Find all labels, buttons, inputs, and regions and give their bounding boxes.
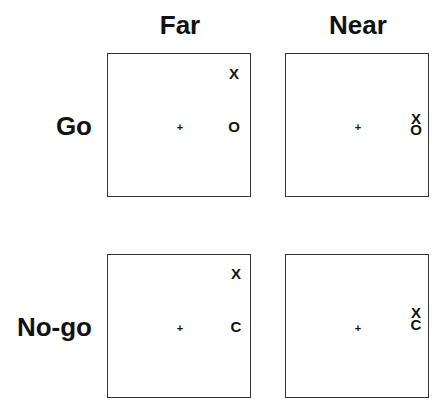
fixation-cross: + xyxy=(355,122,361,133)
target-symbol-o: O xyxy=(228,119,240,134)
row-label-nogo: No-go xyxy=(0,312,92,342)
target-symbol-o: O xyxy=(410,122,422,137)
target-symbol-c: C xyxy=(231,319,242,334)
panel-nogo-far: + X C xyxy=(107,254,251,398)
panel-nogo-near: + X C xyxy=(285,254,429,398)
fixation-cross: + xyxy=(177,323,183,334)
panel-go-far: + X O xyxy=(107,53,251,197)
panel-go-near: + X O xyxy=(285,53,429,197)
row-label-go: Go xyxy=(0,111,92,141)
column-label-far: Far xyxy=(107,10,253,40)
fixation-cross: + xyxy=(355,323,361,334)
target-symbol-x: X xyxy=(229,66,239,81)
target-symbol-x: X xyxy=(231,266,241,281)
target-symbol-c: C xyxy=(411,317,422,332)
fixation-cross: + xyxy=(177,122,183,133)
column-label-near: Near xyxy=(285,10,431,40)
